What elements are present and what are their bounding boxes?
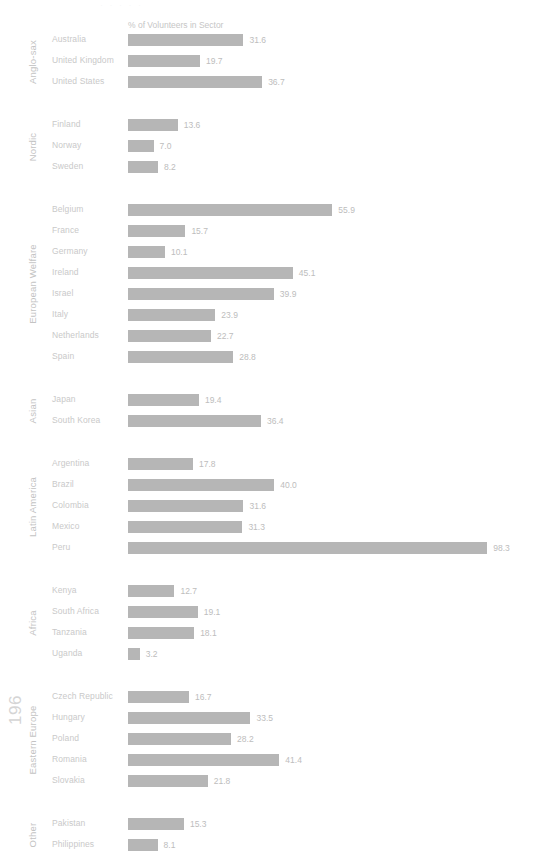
category-label: Poland <box>52 733 79 743</box>
bar <box>128 161 158 173</box>
category-label: Norway <box>52 140 81 150</box>
chart-row: Ireland45.1 <box>0 263 538 284</box>
chart-row: Colombia31.6 <box>0 496 538 517</box>
chart-row: Kenya12.7 <box>0 581 538 602</box>
category-label: Spain <box>52 351 74 361</box>
chart-group: AfricaKenya12.7South Africa19.1Tanzania1… <box>0 581 538 665</box>
bar <box>128 225 185 237</box>
bar <box>128 479 274 491</box>
bar <box>128 458 193 470</box>
bar <box>128 288 274 300</box>
chart-group: European WelfareBelgium55.9France15.7Ger… <box>0 200 538 368</box>
bar-value-label: 28.2 <box>237 734 254 744</box>
bar <box>128 818 184 830</box>
bar-value-label: 45.1 <box>299 268 316 278</box>
category-label: Colombia <box>52 500 89 510</box>
category-label: Sweden <box>52 161 83 171</box>
bar-value-label: 15.3 <box>190 819 207 829</box>
chart-row: Germany10.1 <box>0 242 538 263</box>
bar <box>128 204 332 216</box>
bar-value-label: 28.8 <box>239 352 256 362</box>
bar-value-label: 22.7 <box>217 331 234 341</box>
bar-value-label: 41.4 <box>285 755 302 765</box>
chart-group: Eastern EuropeCzech Republic16.7Hungary3… <box>0 687 538 792</box>
category-label: Israel <box>52 288 73 298</box>
chart-row: Belgium55.9 <box>0 200 538 221</box>
chart-row: Tanzania18.1 <box>0 623 538 644</box>
category-label: Argentina <box>52 458 89 468</box>
chart-row: Hungary33.5 <box>0 708 538 729</box>
chart-row: Mexico31.3 <box>0 517 538 538</box>
bar-value-label: 55.9 <box>338 205 355 215</box>
bar <box>128 415 261 427</box>
category-label: Pakistan <box>52 818 85 828</box>
bar-value-label: 15.7 <box>191 226 208 236</box>
chart-row: United States36.7 <box>0 72 538 93</box>
bar <box>128 691 189 703</box>
chart-row: Czech Republic16.7 <box>0 687 538 708</box>
chart-row: Spain28.8 <box>0 347 538 368</box>
category-label: Brazil <box>52 479 74 489</box>
bar-value-label: 36.4 <box>267 416 284 426</box>
chart-row: Japan19.4 <box>0 390 538 411</box>
category-label: Philippines <box>52 839 94 849</box>
bar-value-label: 98.3 <box>493 543 510 553</box>
bar-value-label: 36.7 <box>268 77 285 87</box>
chart-row: Romania41.4 <box>0 750 538 771</box>
category-label: Ireland <box>52 267 79 277</box>
bar-value-label: 21.8 <box>214 776 231 786</box>
bar-value-label: 17.8 <box>199 459 216 469</box>
bar-value-label: 19.1 <box>204 607 221 617</box>
category-label: Italy <box>52 309 68 319</box>
bar <box>128 34 243 46</box>
bar-value-label: 31.3 <box>248 522 265 532</box>
bar <box>128 585 174 597</box>
chart-row: Pakistan15.3 <box>0 814 538 835</box>
chart-row: United Kingdom19.7 <box>0 51 538 72</box>
bar-value-label: 19.7 <box>206 56 223 66</box>
bar-value-label: 13.6 <box>184 120 201 130</box>
category-label: Japan <box>52 394 76 404</box>
chart-row: Slovakia21.8 <box>0 771 538 792</box>
chart-group: Latin AmericaArgentina17.8Brazil40.0Colo… <box>0 454 538 559</box>
category-label: South Korea <box>52 415 100 425</box>
bar-value-label: 31.6 <box>249 501 266 511</box>
bar <box>128 542 487 554</box>
bar-value-label: 8.1 <box>164 840 176 850</box>
category-label: Tanzania <box>52 627 87 637</box>
chart-row: South Korea36.4 <box>0 411 538 432</box>
bar-value-label: 7.0 <box>160 141 172 151</box>
category-label: Australia <box>52 34 86 44</box>
category-label: Czech Republic <box>52 691 113 701</box>
category-label: France <box>52 225 79 235</box>
category-label: Peru <box>52 542 70 552</box>
bar-value-label: 19.4 <box>205 395 222 405</box>
chart-row: Uganda3.2 <box>0 644 538 665</box>
bar <box>128 330 211 342</box>
bar-value-label: 12.7 <box>180 586 197 596</box>
category-label: Belgium <box>52 204 83 214</box>
bar <box>128 76 262 88</box>
bar <box>128 606 198 618</box>
chart-row: Finland13.6 <box>0 115 538 136</box>
bar <box>128 267 293 279</box>
bar <box>128 55 200 67</box>
category-label: Finland <box>52 119 81 129</box>
bar-value-label: 33.5 <box>256 713 273 723</box>
bar <box>128 648 140 660</box>
category-label: Romania <box>52 754 87 764</box>
category-label: Netherlands <box>52 330 99 340</box>
chart-row: Brazil40.0 <box>0 475 538 496</box>
bar <box>128 309 215 321</box>
chart-row: Norway7.0 <box>0 136 538 157</box>
bar-value-label: 16.7 <box>195 692 212 702</box>
bar-value-label: 31.6 <box>249 35 266 45</box>
chart-row: Italy23.9 <box>0 305 538 326</box>
category-label: Kenya <box>52 585 77 595</box>
category-label: Slovakia <box>52 775 85 785</box>
chart-row: Netherlands22.7 <box>0 326 538 347</box>
bar <box>128 775 208 787</box>
bar <box>128 733 231 745</box>
bar <box>128 754 279 766</box>
bar-value-label: 40.0 <box>280 480 297 490</box>
